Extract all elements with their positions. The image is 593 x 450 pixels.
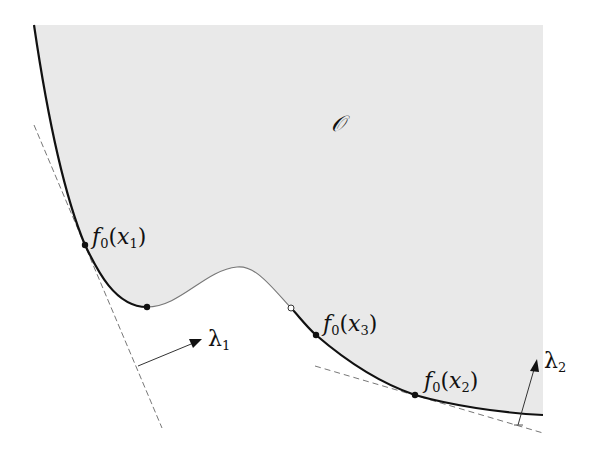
lambda1-arrow <box>138 342 196 366</box>
fn: f <box>323 311 331 336</box>
label-f0-x2: f0(x2) <box>424 370 478 394</box>
label-lambda1: λ1 <box>208 328 230 352</box>
arg: x <box>348 311 360 336</box>
point-open <box>288 305 294 311</box>
lambda-sub: 1 <box>222 338 230 353</box>
arg-sub: 2 <box>461 380 469 395</box>
region-o <box>34 25 543 415</box>
point-bottom <box>144 304 150 310</box>
lambda-symbol: λ <box>544 348 558 373</box>
point-f0-x1 <box>82 242 88 248</box>
region-label: 𝒪 <box>331 113 345 135</box>
label-lambda2: λ2 <box>544 350 566 374</box>
arg-sub: 1 <box>129 236 137 251</box>
lambda-symbol: λ <box>208 326 222 351</box>
fn: f <box>92 224 100 249</box>
lambda1-arrowhead-icon <box>189 339 202 348</box>
arg: x <box>449 368 461 393</box>
convex-hull-diagram <box>0 0 593 450</box>
label-f0-x1: f0(x1) <box>92 226 146 250</box>
point-f0-x3 <box>313 332 319 338</box>
arg-sub: 3 <box>360 323 368 338</box>
point-f0-x2 <box>412 392 418 398</box>
fn: f <box>424 368 432 393</box>
label-f0-x3: f0(x3) <box>323 313 377 337</box>
region-label-text: 𝒪 <box>331 111 345 136</box>
lambda-sub: 2 <box>558 360 566 375</box>
arg: x <box>117 224 129 249</box>
